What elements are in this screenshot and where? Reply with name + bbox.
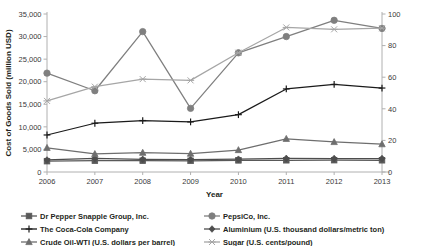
y2-axis-tick-label: 0 [388, 168, 392, 177]
y-axis-tick-label: 20,000 [19, 77, 42, 86]
data-point [379, 85, 386, 92]
data-point [187, 105, 193, 111]
data-point [44, 144, 50, 150]
data-point [283, 24, 290, 30]
y2-axis-tick-label: 80 [388, 41, 396, 50]
x-axis-tick-label: 2012 [326, 177, 343, 186]
series-2 [44, 17, 385, 111]
data-point [44, 132, 51, 139]
y-axis-tick-label: 15,000 [19, 100, 42, 109]
x-axis-tick-label: 2009 [182, 177, 199, 186]
data-point [283, 86, 290, 93]
x-axis-tick-label: 2010 [230, 177, 247, 186]
data-point [91, 120, 98, 127]
x-axis-title: Year [206, 190, 223, 199]
legend-item-label: Dr Pepper Snapple Group, Inc. [40, 212, 149, 221]
legend-item-label: Sugar (U.S. cents/pound) [223, 238, 313, 246]
x-axis-tick-label: 2013 [374, 177, 391, 186]
y-axis-tick-label: 0 [37, 168, 41, 177]
legend-item[interactable]: The Coca-Cola Company [21, 225, 130, 234]
data-point [140, 28, 146, 34]
chart-container: 05,00010,00015,00020,00025,00030,00035,0… [0, 0, 423, 246]
legend-item-label: The Coca-Cola Company [40, 225, 130, 234]
y2-axis-tick-label: 100 [388, 10, 401, 19]
y2-axis-tick-label: 40 [388, 105, 396, 114]
data-point [44, 70, 50, 76]
y2-axis-tick-label: 20 [388, 136, 396, 145]
data-point [187, 118, 194, 125]
x-axis-tick-label: 2007 [87, 177, 104, 186]
legend-item[interactable]: Aluminium (U.S. thousand dollars/metric … [204, 225, 385, 234]
legend-item[interactable]: Sugar (U.S. cents/pound) [204, 238, 313, 246]
legend-marker [208, 239, 215, 245]
y-axis-title: Cost of Goods Sold (million USD) [4, 29, 13, 156]
x-axis-tick-label: 2006 [39, 177, 56, 186]
legend-marker [209, 226, 215, 233]
data-point [331, 81, 338, 88]
y-axis-tick-label: 25,000 [19, 55, 42, 64]
legend-item[interactable]: Dr Pepper Snapple Group, Inc. [21, 212, 149, 221]
legend-item-label: Aluminium (U.S. thousand dollars/metric … [223, 225, 385, 234]
legend-marker [26, 226, 33, 233]
legend-marker [209, 213, 215, 219]
x-axis-tick-label: 2011 [278, 177, 294, 186]
y-axis-tick-label: 35,000 [19, 10, 42, 19]
y2-axis-tick-label: 60 [388, 73, 396, 82]
line-chart: 05,00010,00015,00020,00025,00030,00035,0… [0, 0, 423, 246]
legend-item[interactable]: PepsiCo, Inc. [204, 212, 270, 221]
series-5 [44, 135, 385, 156]
legend-marker [26, 213, 32, 219]
data-point [187, 77, 194, 83]
legend-item-label: PepsiCo, Inc. [223, 212, 270, 221]
x-axis-tick-label: 2008 [134, 177, 151, 186]
data-point [235, 111, 242, 118]
y-axis-tick-label: 10,000 [19, 123, 42, 132]
y-axis-tick-label: 5,000 [23, 145, 42, 154]
legend-item[interactable]: Crude Oil-WTI (U.S. dollars per barrel) [21, 238, 176, 246]
legend-item-label: Crude Oil-WTI (U.S. dollars per barrel) [40, 238, 176, 246]
data-point [331, 26, 338, 32]
data-point [139, 117, 146, 124]
series-line [47, 139, 382, 154]
data-point [331, 17, 337, 23]
y-axis-tick-label: 30,000 [19, 32, 42, 41]
data-point [283, 33, 289, 39]
series-line [47, 20, 382, 108]
data-point [139, 76, 146, 82]
